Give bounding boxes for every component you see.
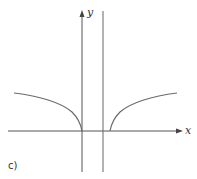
function-graph-figure: x y c) — [0, 0, 197, 179]
y-axis-arrow-icon — [80, 10, 85, 17]
x-axis-label: x — [185, 124, 192, 137]
right-curve-branch — [110, 93, 177, 131]
x-axis-arrow-icon — [176, 129, 183, 134]
part-label: c) — [8, 160, 17, 171]
graph-canvas: x y c) — [0, 0, 197, 179]
left-curve-branch — [14, 93, 82, 131]
y-axis-label: y — [86, 6, 94, 19]
